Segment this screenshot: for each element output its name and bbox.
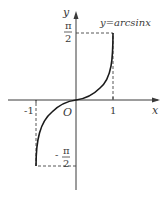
arcsin-graph: y x O -1 1 y=arcsinx π 2 - π 2 (0, 0, 165, 197)
x-axis-label: x (152, 104, 159, 117)
function-label: y=arcsinx (99, 17, 151, 28)
y-axis-label: y (62, 6, 70, 19)
y-tick-pi-over-2: π 2 (64, 20, 72, 44)
svg-text:-: - (55, 149, 58, 160)
svg-text:π: π (63, 145, 70, 156)
svg-text:π: π (65, 20, 72, 31)
x-axis-arrow-icon (152, 98, 160, 103)
origin-label: O (63, 106, 72, 119)
y-axis-arrow-icon (74, 11, 79, 19)
svg-text:2: 2 (63, 158, 69, 169)
x-tick-1: 1 (110, 105, 116, 116)
x-tick-neg1: -1 (24, 105, 34, 116)
svg-text:2: 2 (65, 33, 71, 44)
y-tick-neg-pi-over-2: - π 2 (55, 145, 70, 169)
